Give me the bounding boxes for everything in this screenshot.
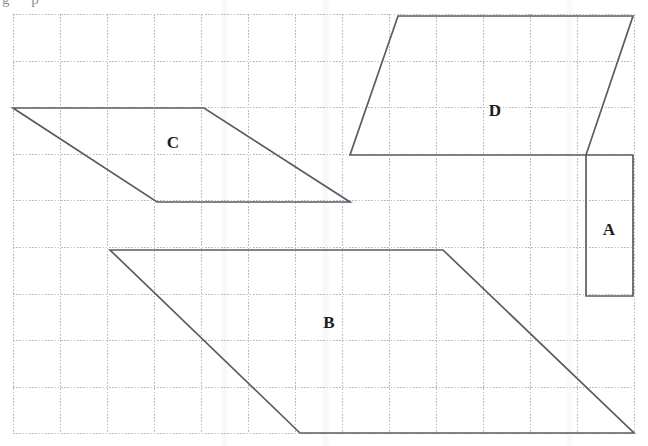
figure-canvas: g p ABCD — [0, 0, 648, 446]
page-title-fragment: g p — [2, 0, 48, 8]
shape-label-d: D — [489, 101, 501, 120]
grid — [13, 14, 634, 434]
shapes-group — [13, 16, 634, 433]
shape-label-a: A — [603, 220, 616, 239]
shape-c[interactable] — [13, 108, 350, 202]
shape-b[interactable] — [110, 250, 634, 433]
shape-labels-group: ABCD — [167, 101, 616, 332]
geometry-figure: ABCD — [0, 0, 648, 446]
shape-label-c: C — [167, 133, 179, 152]
shape-d[interactable] — [350, 16, 633, 155]
shape-label-b: B — [323, 313, 334, 332]
